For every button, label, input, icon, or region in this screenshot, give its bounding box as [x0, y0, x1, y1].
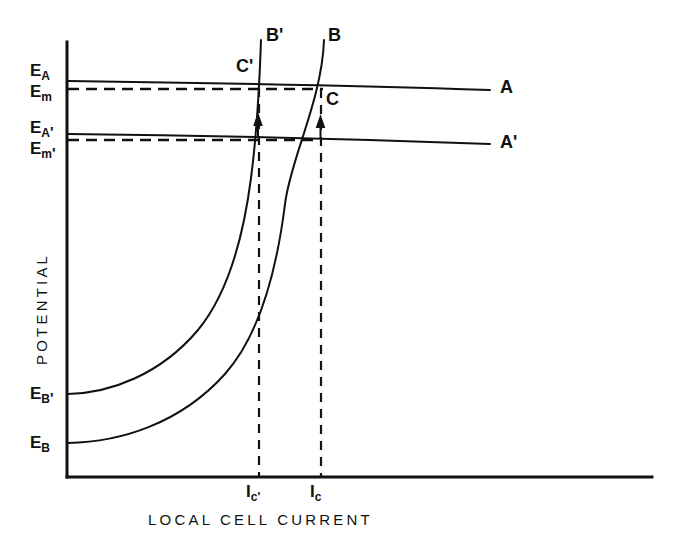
anodic-curve-B-prime	[68, 40, 261, 394]
drop-dashed-group	[259, 88, 321, 477]
potential-label-Em-prime: Em'	[30, 140, 56, 160]
arrow-head-C-prime	[253, 112, 263, 126]
potential-label-EB-prime-sub: B'	[41, 392, 53, 406]
curve-label-C-prime: C'	[236, 57, 253, 75]
axes-group	[67, 42, 652, 477]
anodic-curve-B	[68, 40, 324, 443]
potential-label-EB-sub: B	[41, 441, 50, 455]
curve-label-B: B	[328, 26, 341, 44]
cathodic-curves-group	[68, 81, 490, 144]
curve-label-A: A	[500, 78, 513, 96]
current-label-Ic-sub: c	[315, 490, 322, 504]
potential-label-EA: EA	[30, 62, 50, 82]
potential-label-EA-sub: A	[41, 69, 50, 83]
current-axis-title: LOCAL CELL CURRENT	[148, 512, 373, 527]
potential-label-Em: Em	[30, 83, 52, 103]
current-label-Ic-prime-sub: c'	[251, 490, 261, 504]
potential-label-Em-sub: m	[41, 90, 52, 104]
potential-label-EB-prime: EB'	[30, 385, 54, 405]
diagram-canvas	[0, 0, 678, 550]
curve-label-A-prime: A'	[500, 133, 517, 151]
intersection-arrows-group	[253, 112, 325, 138]
current-label-Ic: Ic	[310, 483, 321, 503]
arrow-head-C	[316, 114, 326, 128]
polarization-diagram-figure: POTENTIAL LOCAL CELL CURRENT EA Em EA' E…	[0, 0, 678, 550]
potential-label-EB: EB	[30, 434, 50, 454]
potential-label-EA-prime: EA'	[30, 119, 54, 139]
curve-label-B-prime: B'	[266, 26, 283, 44]
potential-axis-title: POTENTIAL	[34, 253, 49, 365]
anodic-curves-group	[68, 40, 324, 443]
potential-label-EA-prime-sub: A'	[41, 126, 53, 140]
curve-label-C: C	[326, 90, 339, 108]
potential-label-Em-prime-sub: m'	[41, 147, 55, 161]
level-dashed-group	[68, 89, 323, 140]
current-label-Ic-prime: Ic'	[246, 483, 260, 503]
